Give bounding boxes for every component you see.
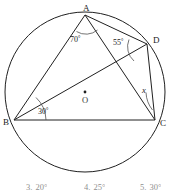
answer-choice-3-number: 3. <box>26 182 32 190</box>
angle-label-d: 55° <box>113 38 124 48</box>
circle-geometry-diagram: O A D C B 70° 55° 30° x <box>0 0 172 190</box>
vertex-label-a: A <box>83 3 90 13</box>
angle-arc-d <box>128 40 134 62</box>
center-point-dot <box>84 91 87 94</box>
chord-ab <box>14 15 85 120</box>
angle-label-x: x <box>141 85 146 95</box>
chord-bd <box>14 44 147 120</box>
answer-choice-4-value: 25° <box>93 182 105 190</box>
geometry-figure: O A D C B 70° 55° 30° x <box>0 0 172 190</box>
answer-choice-4-number: 4. <box>84 182 90 190</box>
angle-label-b: 30° <box>38 107 49 117</box>
answer-choice-5[interactable]: 5.30° <box>140 179 161 190</box>
answer-choice-3-value: 20° <box>35 182 47 190</box>
answer-choice-5-number: 5. <box>140 182 146 190</box>
answer-choice-3[interactable]: 3.20° <box>26 179 47 190</box>
center-label-o: O <box>82 95 88 105</box>
answer-choice-5-value: 30° <box>149 182 161 190</box>
vertex-label-b: B <box>3 117 9 127</box>
chord-ac <box>85 15 155 120</box>
vertex-label-c: C <box>160 118 166 128</box>
answer-choice-4[interactable]: 4.25° <box>84 179 105 190</box>
angle-label-a: 70° <box>70 35 81 45</box>
vertex-label-d: D <box>153 35 160 45</box>
answer-choices-row: 3.20° 4.25° 5.30° <box>0 179 172 190</box>
